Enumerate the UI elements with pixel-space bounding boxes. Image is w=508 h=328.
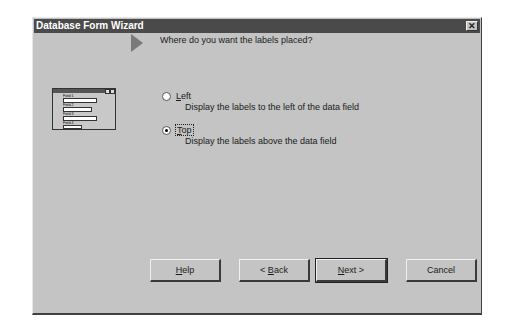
preview-titlebar (53, 89, 115, 93)
radio-top[interactable] (162, 126, 171, 135)
step-arrow-icon (131, 34, 143, 52)
wizard-dialog: Database Form Wizard ✕ Where do you want… (32, 17, 482, 315)
window-title: Database Form Wizard (36, 20, 144, 31)
preview-field-box (63, 125, 82, 129)
close-button[interactable]: ✕ (466, 21, 478, 31)
title-bar[interactable]: Database Form Wizard ✕ (34, 19, 480, 33)
cancel-button[interactable]: Cancel (406, 259, 477, 282)
radio-left[interactable] (162, 92, 171, 101)
preview-close-icon (110, 89, 115, 94)
option-top-description: Display the labels above the data field (185, 136, 337, 146)
option-left-label[interactable]: Left (176, 91, 191, 101)
close-icon: ✕ (468, 21, 476, 31)
form-preview-image: Field 1 Field 2 Field 3 Field 4 (52, 88, 116, 130)
option-top-label[interactable]: Top (176, 125, 193, 135)
next-button[interactable]: Next > (316, 259, 387, 282)
back-button[interactable]: < Back (239, 259, 310, 282)
help-button[interactable]: Help (150, 259, 221, 282)
question-text: Where do you want the labels placed? (160, 35, 313, 45)
option-left-description: Display the labels to the left of the da… (185, 102, 359, 112)
